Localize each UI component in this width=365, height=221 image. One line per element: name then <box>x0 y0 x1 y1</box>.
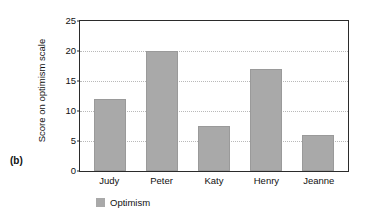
legend: Optimism <box>96 197 150 208</box>
y-tick-label: 20 <box>65 46 76 56</box>
x-tick-label-henry: Henry <box>240 175 292 186</box>
y-tick-label: 25 <box>65 16 76 26</box>
bar-judy <box>94 99 125 171</box>
y-tick-label: 15 <box>65 76 76 86</box>
bar-katy <box>198 126 229 171</box>
y-tick-label: 10 <box>65 106 76 116</box>
x-tick-label-peter: Peter <box>135 175 187 186</box>
x-tick-label-judy: Judy <box>83 175 135 186</box>
bar-jeanne <box>302 135 333 171</box>
bar-series-optimism <box>80 21 348 171</box>
legend-label-optimism: Optimism <box>110 197 150 208</box>
bar-henry <box>250 69 281 171</box>
x-tick-label-jeanne: Jeanne <box>293 175 345 186</box>
y-axis-title: Score on optimism scale <box>36 21 47 161</box>
figure-panel-b: (b) Score on optimism scale 0510152025 J… <box>0 0 365 221</box>
bar-peter <box>146 51 177 171</box>
bar-slot <box>84 21 136 171</box>
plot-area: 0510152025 <box>79 20 349 172</box>
y-tick-label: 5 <box>71 136 76 146</box>
bar-slot <box>292 21 344 171</box>
panel-label: (b) <box>10 155 23 166</box>
x-axis-labels: JudyPeterKatyHenryJeanne <box>79 175 349 186</box>
bar-slot <box>240 21 292 171</box>
y-tick-label: 0 <box>71 166 76 176</box>
bar-slot <box>136 21 188 171</box>
legend-swatch-optimism <box>96 198 105 207</box>
bar-slot <box>188 21 240 171</box>
x-tick-label-katy: Katy <box>188 175 240 186</box>
